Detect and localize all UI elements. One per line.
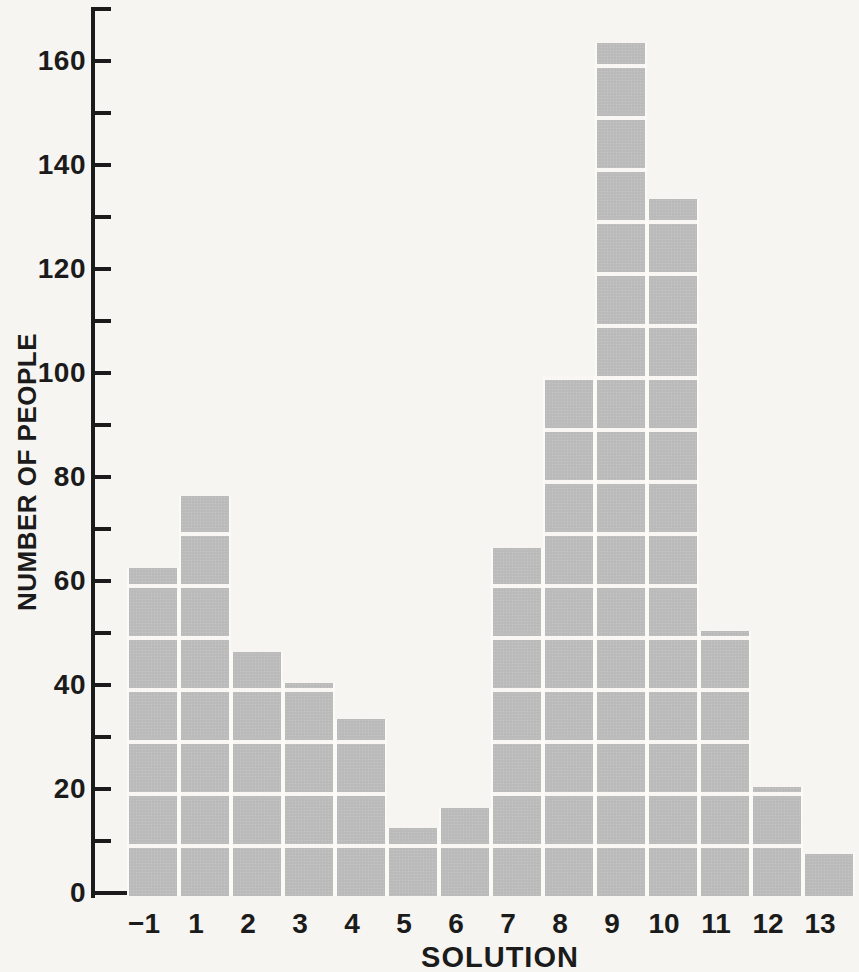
y-axis-tick bbox=[91, 579, 111, 583]
bar-solution-4 bbox=[335, 719, 387, 896]
figure-page: NUMBER OF PEOPLE 020406080100120140160 −… bbox=[0, 0, 859, 972]
x-axis-title: SOLUTION bbox=[390, 941, 610, 972]
y-axis-tick bbox=[91, 423, 111, 427]
bar-solution-−1 bbox=[127, 568, 179, 896]
y-axis-tick bbox=[91, 371, 111, 375]
y-axis-tick bbox=[91, 163, 111, 167]
y-tick-label: 140 bbox=[6, 150, 86, 180]
y-tick-label: 120 bbox=[6, 254, 86, 284]
y-axis-tick bbox=[91, 631, 111, 635]
y-axis-tick bbox=[91, 215, 111, 219]
y-axis-tick bbox=[91, 319, 111, 323]
bar-solution-3 bbox=[283, 683, 335, 896]
bar-solution-7 bbox=[491, 548, 543, 896]
y-tick-label: 20 bbox=[6, 774, 86, 804]
y-axis-tick bbox=[91, 735, 111, 739]
y-axis-tick bbox=[91, 111, 111, 115]
bar-chart-figure: NUMBER OF PEOPLE 020406080100120140160 −… bbox=[0, 0, 859, 972]
y-tick-label: 100 bbox=[6, 358, 86, 388]
y-axis-tick bbox=[91, 683, 111, 687]
y-tick-label: 60 bbox=[6, 566, 86, 596]
bar-solution-9 bbox=[595, 43, 647, 896]
y-axis-tick bbox=[91, 59, 111, 63]
y-axis-top-cap bbox=[91, 7, 111, 11]
bar-solution-5 bbox=[387, 828, 439, 896]
y-tick-label: 160 bbox=[6, 46, 86, 76]
y-tick-label: 40 bbox=[6, 670, 86, 700]
bar-solution-12 bbox=[751, 787, 803, 896]
y-axis-line bbox=[91, 10, 95, 898]
y-axis-tick bbox=[91, 475, 111, 479]
y-axis-tick bbox=[91, 527, 111, 531]
bar-solution-13 bbox=[803, 854, 855, 896]
bar-solution-1 bbox=[179, 496, 231, 896]
y-axis-tick bbox=[91, 787, 111, 791]
bar-solution-8 bbox=[543, 376, 595, 896]
x-tick-label: 13 bbox=[785, 908, 855, 940]
y-tick-label: 0 bbox=[6, 878, 86, 908]
bar-solution-11 bbox=[699, 631, 751, 896]
y-axis-tick bbox=[91, 839, 111, 843]
bar-solution-6 bbox=[439, 808, 491, 896]
bar-solution-2 bbox=[231, 652, 283, 896]
y-axis-tick bbox=[91, 267, 111, 271]
bar-solution-10 bbox=[647, 199, 699, 896]
y-tick-label: 80 bbox=[6, 462, 86, 492]
